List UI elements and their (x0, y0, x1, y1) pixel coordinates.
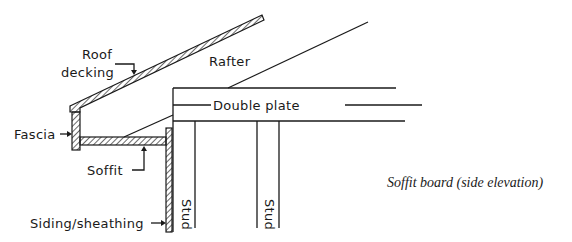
label-stud-2: Stud (262, 199, 277, 230)
label-rafter: Rafter (209, 54, 251, 69)
label-decking: decking (61, 65, 114, 80)
label-siding-sheathing: Siding/sheathing (30, 216, 144, 231)
label-stud-1: Stud (179, 199, 194, 230)
soffit-diagram: Roof decking Rafter Double plate Fascia … (0, 0, 572, 242)
figure-caption: Soffit board (side elevation) (387, 175, 544, 191)
soffit-board (80, 137, 166, 145)
soffit-leader (132, 149, 144, 170)
label-soffit: Soffit (87, 163, 123, 178)
label-roof: Roof (82, 47, 112, 62)
label-double-plate: Double plate (213, 98, 300, 113)
arrowhead-icon (141, 146, 147, 151)
label-fascia: Fascia (14, 127, 56, 142)
arrowhead-icon (161, 220, 166, 226)
roof-decking-leader (115, 64, 134, 72)
arrowhead-icon (67, 131, 72, 137)
siding-sheathing-board (166, 128, 172, 232)
fascia-board (72, 112, 80, 150)
